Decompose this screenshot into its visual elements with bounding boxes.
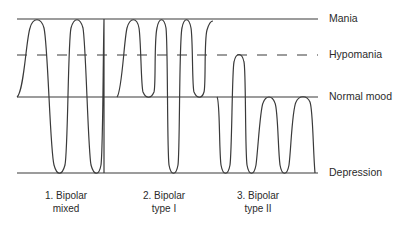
bipolar-type-1-line1: 2. Bipolar (134, 189, 194, 202)
bipolar-mixed-line1: 1. Bipolar (36, 189, 96, 202)
bipolar-mixed-label: 1. Bipolar mixed (36, 189, 96, 215)
bipolar-mixed-line2: mixed (36, 202, 96, 215)
hypomania-label: Hypomania (329, 48, 382, 60)
bipolar-type-2-line1: 3. Bipolar (228, 189, 288, 202)
mania-label: Mania (329, 12, 358, 24)
bipolar-type-1-line2: type I (134, 202, 194, 215)
bipolar-type-2-line2: type II (228, 202, 288, 215)
bipolar-mixed-curve (17, 19, 104, 173)
depression-label: Depression (329, 166, 382, 178)
bipolar-type-2-curve (217, 55, 315, 174)
bipolar-type-2-label: 3. Bipolar type II (228, 189, 288, 215)
normal-mood-label: Normal mood (329, 90, 392, 102)
bipolar-type-1-label: 2. Bipolar type I (134, 189, 194, 215)
